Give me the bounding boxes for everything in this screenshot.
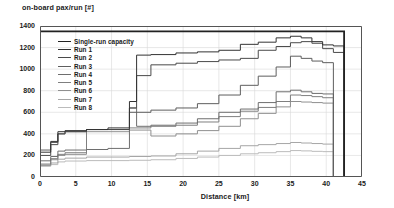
legend-label: Single-run capacity (74, 38, 134, 45)
legend-item[interactable]: Run 2 (58, 54, 134, 62)
legend-item[interactable]: Run 4 (58, 70, 134, 78)
x-tick-label: 45 (352, 180, 372, 187)
series-line (40, 142, 333, 177)
legend-label: Run 1 (74, 46, 92, 53)
x-tick-label: 10 (102, 180, 122, 187)
x-tick-label: 5 (66, 180, 86, 187)
x-tick-label: 25 (209, 180, 229, 187)
chart-root: on-board pax/run [#] 0200400600800100012… (0, 0, 394, 208)
legend-item[interactable]: Run 1 (58, 45, 134, 53)
x-tick-label: 20 (173, 180, 193, 187)
legend-label: Run 7 (74, 96, 92, 103)
legend-label: Run 3 (74, 63, 92, 70)
legend-label: Run 2 (74, 54, 92, 61)
x-tick-label: 40 (316, 180, 336, 187)
legend-swatch-icon (58, 99, 71, 100)
x-tick-label: 0 (30, 180, 50, 187)
x-tick-label: 30 (245, 180, 265, 187)
legend-swatch-icon (58, 66, 71, 67)
legend-item[interactable]: Run 8 (58, 103, 134, 111)
legend-label: Run 4 (74, 71, 92, 78)
legend-item[interactable]: Single-run capacity (58, 37, 134, 45)
x-tick-label: 35 (280, 180, 300, 187)
legend-swatch-icon (58, 57, 71, 58)
legend-item[interactable]: Run 6 (58, 87, 134, 95)
legend-swatch-icon (58, 74, 71, 75)
legend-swatch-icon (58, 107, 71, 108)
legend-swatch-icon (58, 90, 71, 91)
x-tick-label: 15 (137, 180, 157, 187)
legend-label: Run 8 (74, 104, 92, 111)
x-axis-label-text: Distance [km] (201, 192, 249, 201)
legend-label: Run 6 (74, 87, 92, 94)
chart-legend: Single-run capacityRun 1Run 2Run 3Run 4R… (56, 36, 136, 113)
legend-item[interactable]: Run 7 (58, 95, 134, 103)
legend-label: Run 5 (74, 79, 92, 86)
legend-swatch-icon (58, 49, 71, 50)
legend-swatch-icon (58, 82, 71, 83)
legend-swatch-icon (58, 41, 71, 42)
legend-item[interactable]: Run 3 (58, 62, 134, 70)
x-axis-label: Distance [km] (0, 192, 394, 201)
series-line (40, 102, 333, 178)
legend-item[interactable]: Run 5 (58, 78, 134, 86)
